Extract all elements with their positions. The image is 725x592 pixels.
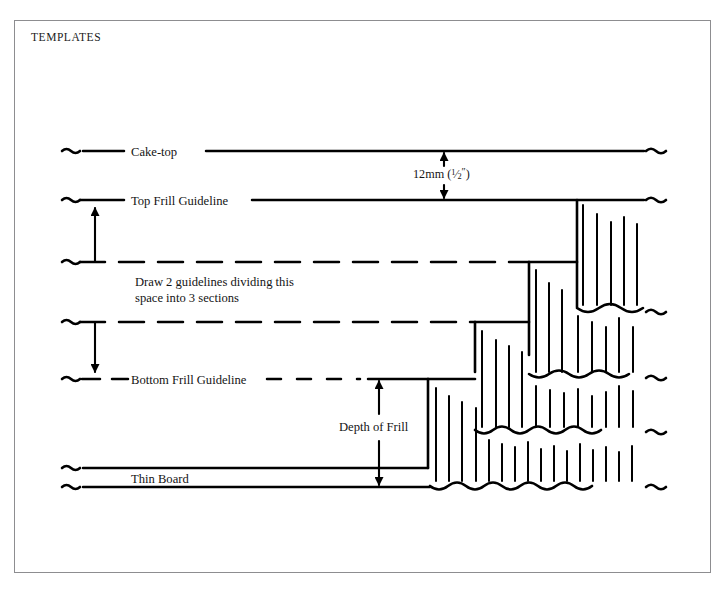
instruction-line-2: space into 3 sections <box>135 291 239 305</box>
label-thin-board: Thin Board <box>131 471 189 487</box>
fraction-denominator: 2 <box>457 172 461 181</box>
label-bottom-frill-guideline: Bottom Frill Guideline <box>131 372 246 388</box>
dimension-metric-value: 12mm <box>413 167 444 181</box>
double-prime-inches: ″ <box>462 166 466 177</box>
paren-close: ) <box>466 167 470 181</box>
page-title: TEMPLATES <box>31 31 101 43</box>
label-cake-top: Cake-top <box>131 144 177 160</box>
dimension-imperial: (1⁄2″) <box>447 167 470 181</box>
page-header-ghost <box>0 0 725 13</box>
label-12mm-dimension: 12mm (1⁄2″) <box>413 167 470 183</box>
instruction-line-1: Draw 2 guidelines dividing this <box>135 275 294 289</box>
instruction-text: Draw 2 guidelines dividing this space in… <box>135 274 294 306</box>
diagram-frame <box>14 20 711 573</box>
diagram-page: TEMPLATES <box>0 0 725 592</box>
label-depth-of-frill: Depth of Frill <box>339 419 408 435</box>
fraction-numerator: 1 <box>451 168 455 177</box>
label-top-frill-guideline: Top Frill Guideline <box>131 193 228 209</box>
